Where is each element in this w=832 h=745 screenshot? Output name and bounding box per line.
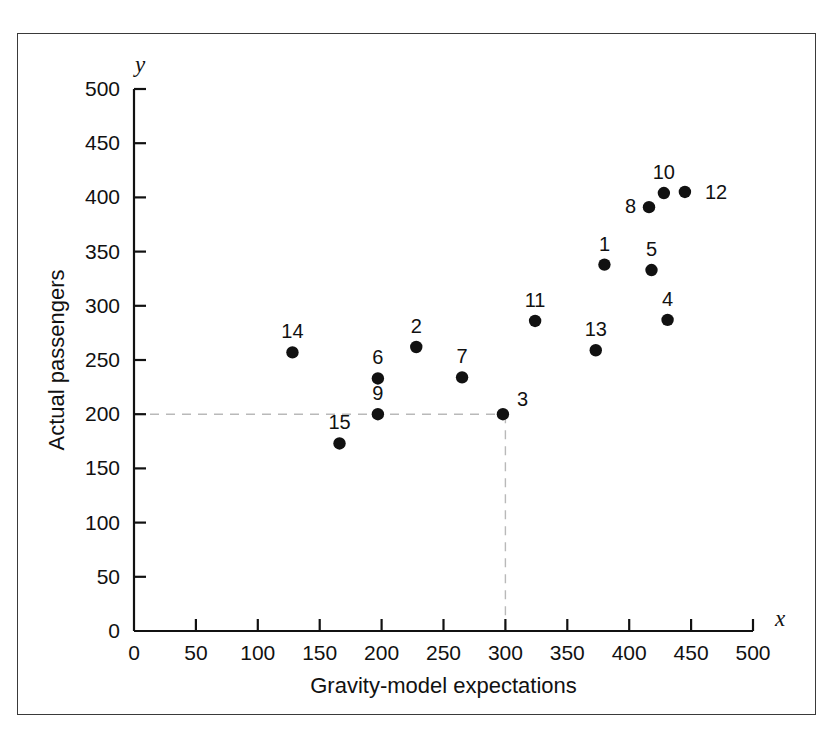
data-point-label: 4 — [662, 288, 673, 310]
x-tick-label: 200 — [364, 641, 399, 664]
y-variable-label: y — [133, 52, 146, 77]
data-point-label: 9 — [372, 382, 383, 404]
guide-lines — [134, 414, 505, 631]
data-point-marker — [658, 187, 670, 199]
data-point-marker — [661, 314, 673, 326]
data-point-label: 7 — [457, 345, 468, 367]
scatter-plot: 0501001502002503003504004505000501001502… — [0, 0, 832, 745]
axis-titles: yxGravity-model expectationsActual passe… — [44, 52, 786, 698]
data-point: 14 — [281, 320, 303, 358]
data-point-marker — [372, 408, 384, 420]
y-tick-label: 350 — [85, 240, 120, 263]
x-tick-label: 350 — [550, 641, 585, 664]
data-point-label: 2 — [411, 315, 422, 337]
x-tick-label: 150 — [302, 641, 337, 664]
x-variable-label: x — [774, 606, 786, 631]
y-tick-label: 200 — [85, 402, 120, 425]
data-point-label: 14 — [281, 320, 303, 342]
x-tick-label: 450 — [674, 641, 709, 664]
data-point-marker — [497, 408, 509, 420]
y-tick-label: 500 — [85, 77, 120, 100]
x-tick-label: 100 — [240, 641, 275, 664]
data-point: 1 — [598, 233, 610, 271]
data-point-marker — [286, 346, 298, 358]
figure-root: 0501001502002503003504004505000501001502… — [0, 0, 832, 745]
data-point-marker — [598, 258, 610, 270]
data-point-label: 3 — [517, 388, 528, 410]
y-tick-label: 300 — [85, 294, 120, 317]
data-point-label: 12 — [705, 181, 727, 203]
data-point-label: 11 — [525, 289, 546, 311]
data-point: 2 — [410, 315, 422, 353]
y-axis-title: Actual passengers — [44, 270, 69, 451]
data-point-marker — [410, 341, 422, 353]
data-points: 123456789101112131415 — [281, 161, 727, 450]
data-point-marker — [643, 201, 655, 213]
data-point-label: 10 — [653, 161, 675, 183]
data-point: 8 — [625, 195, 655, 217]
x-tick-label: 400 — [612, 641, 647, 664]
data-point: 15 — [328, 411, 350, 449]
data-point-marker — [590, 344, 602, 356]
data-point: 5 — [645, 238, 657, 276]
x-axis-title: Gravity-model expectations — [310, 673, 577, 698]
y-tick-label: 0 — [108, 619, 120, 642]
data-point-marker — [529, 315, 541, 327]
data-point-marker — [645, 264, 657, 276]
x-tick-label: 250 — [426, 641, 461, 664]
data-point: 11 — [525, 289, 546, 327]
data-point-label: 1 — [599, 233, 610, 255]
x-tick-label: 500 — [735, 641, 770, 664]
y-tick-label: 150 — [85, 456, 120, 479]
y-tick-label: 250 — [85, 348, 120, 371]
x-tick-label: 300 — [488, 641, 523, 664]
data-point: 10 — [653, 161, 675, 199]
data-point-label: 5 — [646, 238, 657, 260]
x-tick-label: 0 — [128, 641, 140, 664]
y-tick-label: 450 — [85, 131, 120, 154]
data-point-marker — [456, 371, 468, 383]
data-point: 4 — [661, 288, 673, 326]
data-point: 7 — [456, 345, 468, 383]
data-point: 6 — [372, 346, 384, 384]
data-point-marker — [679, 186, 691, 198]
data-point: 12 — [679, 181, 727, 203]
data-point-label: 15 — [328, 411, 350, 433]
data-point: 9 — [372, 382, 384, 420]
y-tick-label: 100 — [85, 511, 120, 534]
data-point: 13 — [585, 318, 607, 356]
data-point-label: 13 — [585, 318, 607, 340]
data-point-marker — [333, 437, 345, 449]
y-tick-label: 50 — [97, 565, 120, 588]
data-point: 3 — [497, 388, 528, 420]
data-point-label: 6 — [372, 346, 383, 368]
y-tick-label: 400 — [85, 185, 120, 208]
data-point-label: 8 — [625, 195, 636, 217]
x-tick-label: 50 — [184, 641, 207, 664]
